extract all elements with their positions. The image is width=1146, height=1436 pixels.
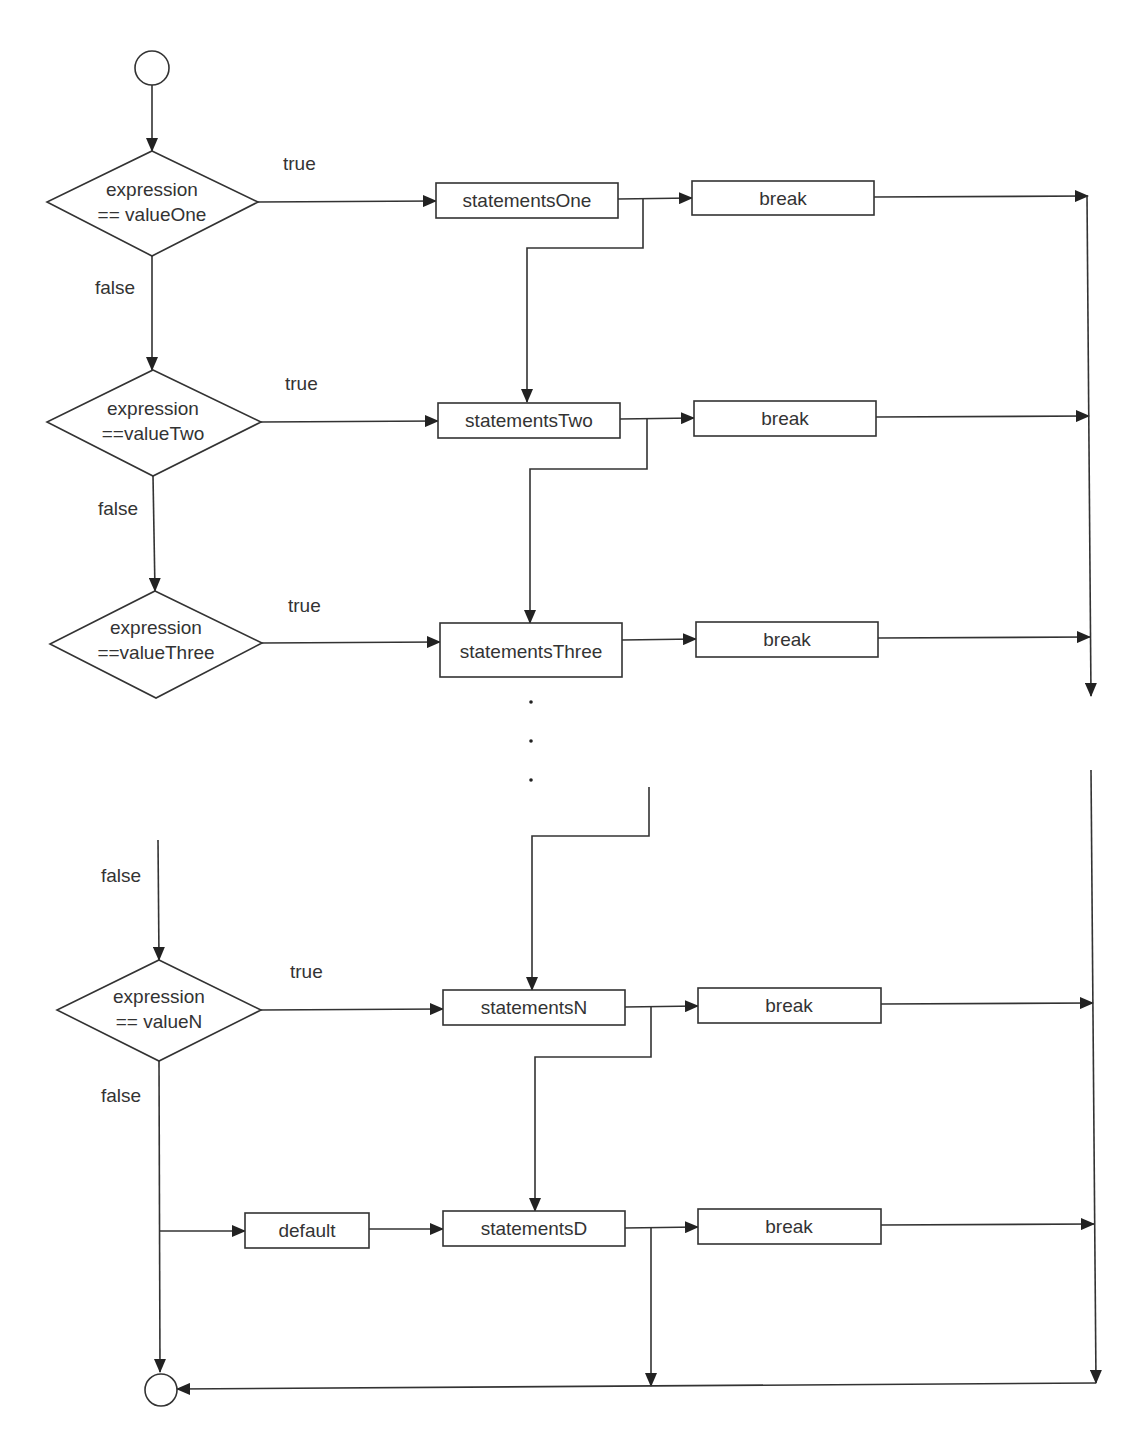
svg-text:break: break xyxy=(763,629,811,650)
statements-D-box: statementsD xyxy=(443,1211,625,1246)
edge-false-N xyxy=(159,1061,160,1372)
svg-text:statementsTwo: statementsTwo xyxy=(465,410,593,431)
svg-text:== valueOne: == valueOne xyxy=(98,204,207,225)
edge-fallthrough-to-N xyxy=(532,787,649,990)
svg-text:expression: expression xyxy=(113,986,205,1007)
edge-fallthrough-2 xyxy=(530,419,647,623)
decision-valueTwo: expression ==valueTwo xyxy=(47,370,261,476)
edge-true-N xyxy=(261,1009,443,1010)
start-node xyxy=(135,51,169,85)
statements-three-box: statementsThree xyxy=(440,623,622,677)
break-box-N: break xyxy=(698,988,881,1023)
edge-break3-to-exit xyxy=(878,637,1090,638)
edge-breakD-to-exit xyxy=(881,1224,1094,1225)
svg-text:==valueThree: ==valueThree xyxy=(97,642,214,663)
svg-text:expression: expression xyxy=(107,398,199,419)
true-label-1: true xyxy=(283,153,316,174)
false-label-N: false xyxy=(101,1085,141,1106)
svg-text:statementsThree: statementsThree xyxy=(460,641,603,662)
switch-flowchart: expression == valueOne true false statem… xyxy=(0,0,1146,1436)
true-label-3: true xyxy=(288,595,321,616)
true-label-2: true xyxy=(285,373,318,394)
decision-valueThree: expression ==valueThree xyxy=(50,591,262,698)
false-label-2: false xyxy=(98,498,138,519)
edge-break1-to-exit xyxy=(874,196,1088,197)
statements-one-box: statementsOne xyxy=(436,183,618,218)
decision-valueOne: expression == valueOne xyxy=(47,151,258,256)
svg-text:break: break xyxy=(759,188,807,209)
false-label-3: false xyxy=(101,865,141,886)
exit-rail-lower xyxy=(1091,770,1096,1383)
svg-text:expression: expression xyxy=(106,179,198,200)
decision-valueN: expression == valueN xyxy=(57,960,261,1061)
edge-stmt2-to-break2 xyxy=(620,418,694,419)
edge-breakN-to-exit xyxy=(881,1003,1093,1004)
edge-true-3 xyxy=(262,642,440,643)
break-box-2: break xyxy=(694,401,876,436)
edge-exit-to-end xyxy=(177,1383,1096,1389)
edge-stmt1-to-break1 xyxy=(618,198,692,199)
edge-stmtN-to-breakN xyxy=(625,1006,698,1007)
svg-text:statementsOne: statementsOne xyxy=(463,190,592,211)
edge-fallthrough-1 xyxy=(527,199,643,402)
edge-fallthrough-to-D xyxy=(535,1007,651,1211)
svg-text:==valueTwo: ==valueTwo xyxy=(102,423,204,444)
edge-stmtD-to-breakD xyxy=(625,1227,698,1228)
statements-N-box: statementsN xyxy=(443,990,625,1025)
edge-break2-to-exit xyxy=(876,416,1089,417)
edge-true-1 xyxy=(258,201,436,202)
false-label-1: false xyxy=(95,277,135,298)
break-box-3: break xyxy=(696,622,878,657)
svg-text:statementsN: statementsN xyxy=(481,997,588,1018)
break-box-D: break xyxy=(698,1209,881,1244)
svg-text:default: default xyxy=(278,1220,336,1241)
break-box-1: break xyxy=(692,181,874,215)
edge-false-2 xyxy=(153,476,155,591)
true-label-N: true xyxy=(290,961,323,982)
svg-text:break: break xyxy=(761,408,809,429)
svg-text:break: break xyxy=(765,1216,813,1237)
exit-rail-upper xyxy=(1087,196,1091,696)
edge-false-into-N xyxy=(158,840,159,960)
svg-text:statementsD: statementsD xyxy=(481,1218,588,1239)
svg-text:== valueN: == valueN xyxy=(116,1011,203,1032)
ellipsis-dots xyxy=(529,700,533,782)
svg-text:break: break xyxy=(765,995,813,1016)
default-box: default xyxy=(245,1213,369,1248)
edge-true-2 xyxy=(261,421,438,422)
edge-stmt3-to-break3 xyxy=(622,639,696,640)
statements-two-box: statementsTwo xyxy=(438,403,620,438)
svg-text:expression: expression xyxy=(110,617,202,638)
end-node xyxy=(145,1374,177,1406)
